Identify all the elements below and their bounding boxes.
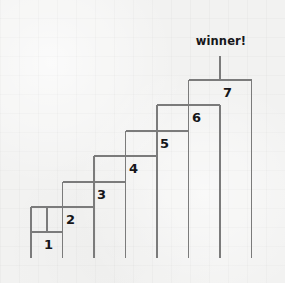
tournament-bracket-figure: winner! 1234567 (0, 0, 285, 283)
match-number-7: 7 (223, 86, 232, 99)
leaf-line-group (31, 80, 252, 258)
match-number-4: 4 (129, 162, 138, 175)
winner-label: winner! (196, 36, 246, 48)
match-number-6: 6 (192, 111, 201, 124)
match-number-5: 5 (160, 137, 169, 150)
match-number-1: 1 (44, 238, 53, 251)
match-number-2: 2 (66, 213, 75, 226)
match-number-3: 3 (97, 188, 106, 201)
match-bracket-group (31, 80, 252, 232)
